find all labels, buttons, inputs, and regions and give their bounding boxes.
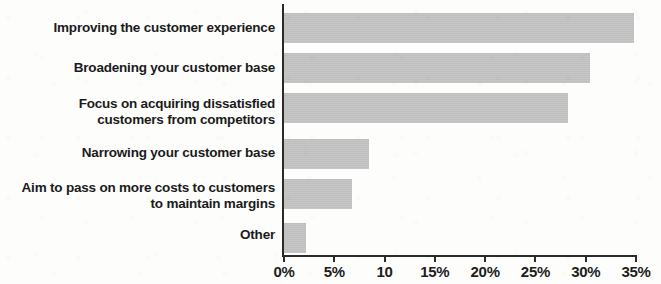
x-tick-label-20: 20%	[471, 263, 500, 280]
category-label-4-line-1: to maintain margins	[0, 196, 275, 212]
x-tick-label-30: 30%	[571, 263, 600, 280]
x-tick-label-5: 5%	[324, 263, 345, 280]
x-tick-label-10: 10	[377, 263, 393, 280]
category-label-0: Improving the customer experience	[0, 20, 275, 36]
x-tick-mark-15	[434, 255, 436, 262]
category-label-5-line-0: Other	[240, 227, 275, 242]
bar-4	[284, 179, 352, 209]
x-tick-label-25: 25%	[521, 263, 550, 280]
category-label-2: Focus on acquiring dissatisfied customer…	[0, 96, 275, 128]
category-label-4-line-0: Aim to pass on more costs to customers	[22, 180, 275, 195]
category-label-4: Aim to pass on more costs to customers t…	[0, 180, 275, 212]
x-tick-label-15: 15%	[420, 263, 449, 280]
category-label-1-line-0: Broadening your customer base	[74, 60, 275, 75]
x-tick-label-35: 35%	[621, 263, 650, 280]
x-tick-mark-30	[585, 255, 587, 262]
category-label-1: Broadening your customer base	[0, 60, 275, 76]
x-tick-mark-35	[635, 255, 637, 262]
category-label-2-line-0: Focus on acquiring dissatisfied	[79, 96, 275, 111]
category-label-5: Other	[0, 227, 275, 243]
category-label-3: Narrowing your customer base	[0, 145, 275, 161]
plot-area: Improving the customer experience Broade…	[0, 0, 661, 284]
bar-2	[284, 93, 568, 123]
y-axis-line	[282, 4, 284, 255]
x-tick-mark-0	[283, 255, 285, 262]
category-label-2-line-1: customers from competitors	[0, 112, 275, 128]
bar-5	[284, 223, 306, 253]
bar-chart-figure: Improving the customer experience Broade…	[0, 0, 661, 284]
category-label-0-line-0: Improving the customer experience	[54, 20, 275, 35]
x-tick-mark-5	[333, 255, 335, 262]
category-label-3-line-0: Narrowing your customer base	[82, 145, 275, 160]
bar-3	[284, 139, 369, 169]
x-tick-mark-20	[484, 255, 486, 262]
bar-0	[284, 13, 634, 43]
x-tick-label-0: 0%	[273, 263, 294, 280]
x-tick-mark-25	[534, 255, 536, 262]
bar-1	[284, 53, 590, 83]
x-tick-mark-10	[384, 255, 386, 262]
